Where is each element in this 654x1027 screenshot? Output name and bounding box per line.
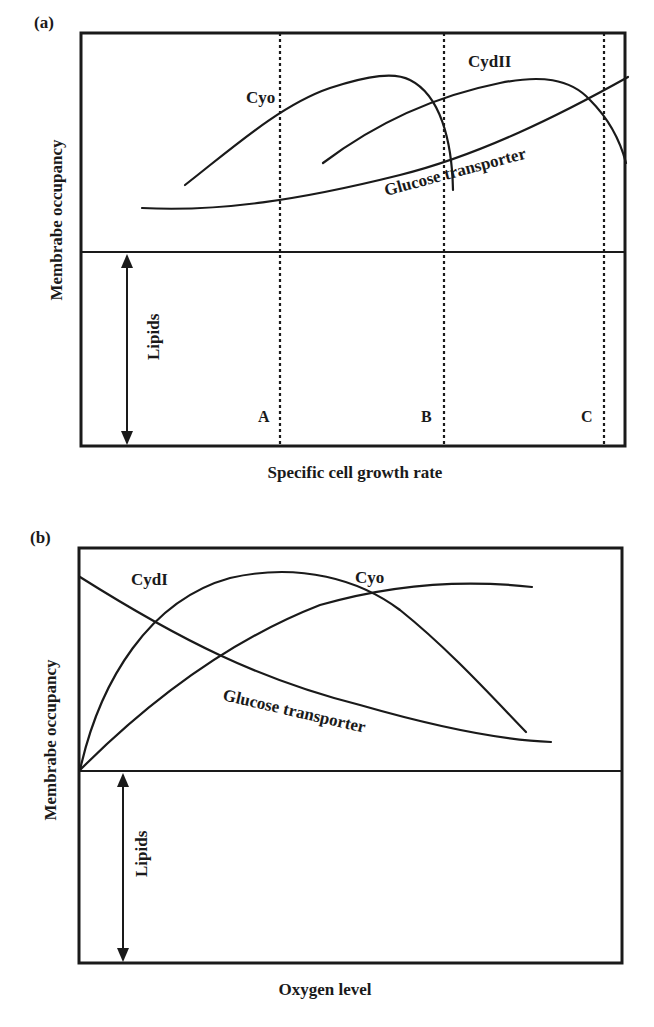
- curve-cyo-a-label: Cyo: [246, 88, 275, 107]
- panel-a: (a) A B C Cyo CydII Glucose transporter …: [34, 13, 628, 482]
- curve-cyo-b: [80, 583, 532, 770]
- panel-b-label: (b): [30, 528, 51, 547]
- curve-cyo-b-label: Cyo: [355, 568, 384, 587]
- curve-cydi-b-label: CydI: [131, 570, 168, 589]
- curve-glucose-b-label: Glucose transporter: [221, 685, 368, 736]
- arrow-down-icon: [117, 948, 129, 962]
- panel-a-xlabel: Specific cell growth rate: [268, 463, 443, 482]
- lipids-label-a: Lipids: [144, 313, 163, 360]
- lipids-label-b: Lipids: [132, 830, 151, 877]
- panel-a-ylabel: Membrabe occupancy: [47, 139, 66, 301]
- panel-b-frame: [79, 548, 622, 963]
- panel-b-xlabel: Oxygen level: [278, 980, 371, 999]
- curve-glucose-a-label: Glucose transporter: [382, 144, 528, 200]
- curve-cydii-a-label: CydII: [468, 52, 512, 71]
- panel-a-label: (a): [34, 13, 54, 32]
- curve-cydi-b: [80, 572, 526, 770]
- marker-b-label: B: [421, 408, 432, 425]
- figure: (a) A B C Cyo CydII Glucose transporter …: [0, 0, 654, 1027]
- marker-c-label: C: [581, 408, 593, 425]
- arrow-up-icon: [117, 773, 129, 787]
- panel-a-frame: [81, 33, 625, 446]
- panel-b: (b) CydI Cyo Glucose transporter Lipids …: [30, 528, 622, 999]
- panel-b-ylabel: Membrabe occupancy: [41, 659, 60, 821]
- marker-a-label: A: [258, 408, 270, 425]
- arrow-down-icon: [121, 431, 133, 445]
- arrow-up-icon: [121, 254, 133, 268]
